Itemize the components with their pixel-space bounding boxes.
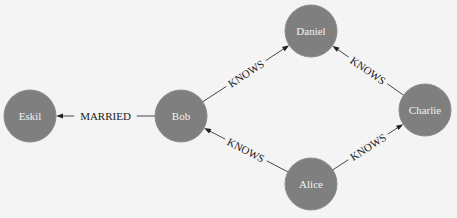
node-label: Alice	[299, 178, 323, 190]
node-bob[interactable]: Bob	[155, 90, 207, 142]
edge-label: MARRIED	[80, 110, 131, 122]
edge-alice-bob[interactable]: KNOWS	[204, 128, 288, 172]
edge-bob-eskil[interactable]: MARRIED	[56, 110, 155, 122]
edge-line	[388, 127, 399, 134]
edge-line	[267, 161, 288, 172]
edges-layer: MARRIEDKNOWSKNOWSKNOWSKNOWS	[56, 45, 404, 172]
edge-line	[208, 130, 225, 139]
edge-line	[266, 48, 285, 61]
nodes-layer: EskilBobDanielCharlieAlice	[4, 5, 451, 210]
node-daniel[interactable]: Daniel	[285, 5, 337, 57]
arrowhead-icon	[282, 45, 289, 51]
node-charlie[interactable]: Charlie	[399, 84, 451, 136]
node-eskil[interactable]: Eskil	[4, 90, 56, 142]
edge-line	[336, 49, 348, 57]
edge-bob-daniel[interactable]: KNOWS	[203, 45, 289, 102]
edge-charlie-daniel[interactable]: KNOWS	[332, 46, 403, 95]
node-label: Bob	[172, 110, 191, 122]
arrowhead-icon	[332, 46, 339, 52]
node-alice[interactable]: Alice	[285, 158, 337, 210]
edge-label: KNOWS	[226, 57, 266, 89]
edge-label: KNOWS	[348, 131, 388, 163]
arrowhead-icon	[396, 124, 403, 130]
edge-line	[387, 84, 403, 95]
node-label: Charlie	[409, 104, 441, 116]
edge-label: KNOWS	[225, 135, 266, 164]
graph-canvas: MARRIEDKNOWSKNOWSKNOWSKNOWS EskilBobDani…	[0, 0, 457, 218]
edge-alice-charlie[interactable]: KNOWS	[333, 124, 403, 170]
node-label: Daniel	[296, 25, 325, 37]
edge-line	[203, 86, 227, 101]
arrowhead-icon	[56, 114, 63, 119]
edge-label: KNOWS	[348, 54, 388, 87]
edge-line	[333, 160, 348, 170]
node-label: Eskil	[19, 110, 42, 122]
arrowhead-icon	[204, 128, 211, 133]
